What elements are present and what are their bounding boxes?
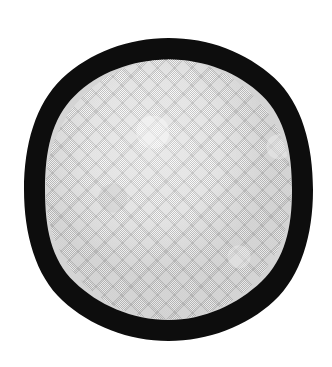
- disc-figure: [0, 0, 332, 367]
- gray-face: [45, 60, 292, 321]
- image-canvas: Photographic image of a circular object …: [0, 0, 332, 367]
